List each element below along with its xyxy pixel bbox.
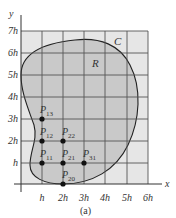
y-tick-2h: 2h: [0, 136, 18, 146]
y-tick-5h: 5h: [0, 70, 18, 80]
point-label-p21: P21: [62, 149, 75, 162]
y-tick-7h: 7h: [0, 26, 18, 36]
point-label-p22: P22: [62, 127, 75, 140]
point-label-p20: P20: [62, 170, 75, 183]
x-axis-label: x: [165, 179, 169, 189]
x-tick-2h: 2h: [53, 193, 73, 203]
x-tick-3h: 3h: [74, 193, 94, 203]
x-tick-4h: 4h: [95, 193, 115, 203]
y-tick-h: h: [0, 158, 18, 168]
y-tick-4h: 4h: [0, 92, 18, 102]
y-tick-3h: 3h: [0, 114, 18, 124]
point-label-p31: P31: [83, 149, 96, 162]
y-tick-6h: 6h: [0, 48, 18, 58]
y-axis-label: y: [9, 9, 13, 19]
point-label-p12: P12: [40, 127, 53, 140]
diagram-canvas: [0, 0, 176, 218]
point-label-p13: P13: [40, 105, 53, 118]
curve-label-c: C: [114, 36, 121, 47]
x-tick-h: h: [32, 193, 52, 203]
point-label-p11: P11: [40, 149, 53, 162]
figure-caption: (a): [80, 206, 91, 216]
x-tick-6h: 6h: [138, 193, 158, 203]
x-tick-5h: 5h: [117, 193, 137, 203]
region-label-r: R: [92, 58, 99, 69]
